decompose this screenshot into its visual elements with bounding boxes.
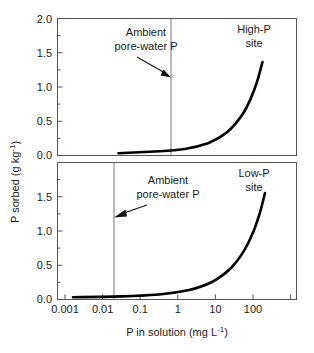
y-ticklabel-top-4: 2.0: [37, 13, 52, 25]
y-axis-title-group: P sorbed (g kg-1): [8, 141, 21, 223]
y-ticklabel-bottom-1: 0.5: [37, 259, 52, 271]
y-ticklabel-top-2: 1.0: [37, 81, 52, 93]
annotation-top-line2: pore-water P: [115, 40, 178, 52]
x-ticklabel-4: 10: [209, 303, 221, 315]
site-label-bottom-line1: Low-P: [238, 167, 269, 179]
annotation-bottom-line2: pore-water P: [137, 188, 200, 200]
chart-svg: 0.0 0.5 1.0 1.5 2.0 Ambient pore-water P…: [0, 0, 314, 353]
site-label-bottom-line2: site: [245, 181, 262, 193]
y-ticklabel-bottom-2: 1.0: [37, 225, 52, 237]
figure-container: 0.0 0.5 1.0 1.5 2.0 Ambient pore-water P…: [0, 0, 314, 353]
y-ticklabel-bottom-3: 1.5: [37, 191, 52, 203]
annotation-top-line1: Ambient: [126, 26, 166, 38]
x-ticklabel-2: 0.1: [133, 303, 148, 315]
y-ticklabel-top-1: 0.5: [37, 115, 52, 127]
site-label-top-line1: High-P: [237, 23, 271, 35]
y-ticklabel-top-0: 0.0: [37, 149, 52, 161]
y-axis-title: P sorbed (g kg-1): [8, 141, 21, 223]
x-ticklabel-1: 0.01: [92, 303, 113, 315]
x-ticklabel-0: 0.001: [51, 303, 79, 315]
x-ticklabel-5: 100: [244, 303, 262, 315]
y-ticklabel-bottom-0: 0.0: [37, 293, 52, 305]
annotation-bottom-line1: Ambient: [148, 174, 188, 186]
y-ticklabel-top-3: 1.5: [37, 47, 52, 59]
x-ticklabel-3: 1: [175, 303, 181, 315]
x-axis-title: P in solution (mg L-1): [126, 325, 228, 338]
site-label-top-line2: site: [245, 37, 262, 49]
